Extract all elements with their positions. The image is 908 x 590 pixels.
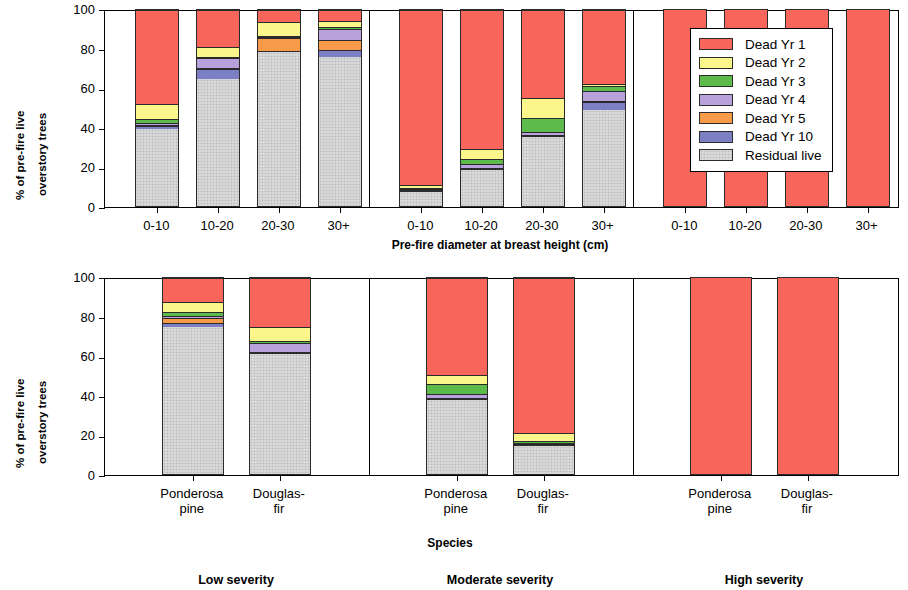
y-axis-tick — [99, 208, 105, 209]
bar-segment-yr2 — [163, 302, 223, 313]
y-axis-tick-label: 60 — [61, 81, 95, 96]
x-axis-tick — [808, 475, 809, 481]
bar-segment-yr3 — [583, 86, 625, 91]
legend-swatch-yr2 — [699, 57, 733, 69]
y-axis-tick-label: 100 — [61, 270, 95, 285]
bar-segment-yr4 — [136, 123, 178, 125]
x-axis-tick — [685, 207, 686, 213]
stacked-bar[interactable] — [777, 277, 839, 475]
y-axis-tick — [99, 358, 105, 359]
stacked-bar[interactable] — [513, 277, 575, 475]
y-axis-tick — [99, 476, 105, 477]
x-axis-tick — [457, 475, 458, 481]
stacked-bar[interactable] — [582, 9, 626, 207]
top-y-axis-title-line1: % of pre-fire live — [14, 111, 26, 200]
x-axis-tick — [340, 207, 341, 213]
y-axis-tick — [99, 318, 105, 319]
bar-segment-yr10 — [319, 50, 361, 57]
y-axis-tick-label: 40 — [61, 121, 95, 136]
legend-item-yr3[interactable]: Dead Yr 3 — [699, 72, 822, 91]
bottom-x-axis-title: Species — [340, 536, 560, 550]
legend-item-residual[interactable]: Residual live — [699, 146, 822, 165]
stacked-bar[interactable] — [690, 277, 752, 475]
bar-segment-yr4 — [427, 394, 487, 398]
legend-item-yr5[interactable]: Dead Yr 5 — [699, 109, 822, 128]
x-axis-tick-label: 30+ — [812, 218, 908, 233]
severity-label-1: Low severity — [126, 573, 346, 587]
bar-segment-yr1 — [522, 10, 564, 98]
bar-segment-yr5 — [197, 68, 239, 69]
stacked-bar[interactable] — [521, 9, 565, 207]
bar-segment-residual — [400, 192, 442, 206]
bottom-plot-area: 020406080100 — [104, 278, 899, 476]
panel-separator — [369, 279, 370, 475]
x-axis-tick — [868, 207, 869, 213]
legend-label-yr4: Dead Yr 4 — [745, 93, 806, 107]
bar-segment-yr1 — [847, 10, 889, 206]
legend-label-yr5: Dead Yr 5 — [745, 112, 806, 126]
bar-segment-yr3 — [400, 188, 442, 189]
stacked-bar[interactable] — [135, 9, 179, 207]
y-axis-tick-label: 80 — [61, 310, 95, 325]
stacked-bar[interactable] — [399, 9, 443, 207]
stacked-bar[interactable] — [162, 277, 224, 475]
bar-segment-yr4 — [461, 164, 503, 168]
bar-segment-yr5 — [522, 135, 564, 136]
legend-item-yr4[interactable]: Dead Yr 4 — [699, 91, 822, 110]
bar-segment-residual — [258, 52, 300, 206]
bar-segment-yr1 — [461, 10, 503, 149]
bottom-y-axis-title-line1: % of pre-fire live — [14, 379, 26, 468]
bar-segment-residual — [250, 354, 310, 474]
legend-swatch-yr10 — [699, 131, 733, 143]
y-axis-tick — [99, 397, 105, 398]
legend-label-yr10: Dead Yr 10 — [745, 130, 813, 144]
bar-segment-yr1 — [400, 10, 442, 185]
stacked-bar[interactable] — [846, 9, 890, 207]
bar-segment-yr2 — [583, 84, 625, 87]
bar-segment-yr2 — [319, 21, 361, 27]
bar-segment-residual — [197, 79, 239, 206]
stacked-bar[interactable] — [257, 9, 301, 207]
x-axis-tick — [721, 475, 722, 481]
bar-segment-yr10 — [583, 102, 625, 110]
stacked-bar[interactable] — [460, 9, 504, 207]
severity-label-2: Moderate severity — [390, 573, 610, 587]
x-axis-tick — [543, 207, 544, 213]
bar-segment-yr4 — [197, 58, 239, 68]
stacked-bar[interactable] — [426, 277, 488, 475]
stacked-bar[interactable] — [318, 9, 362, 207]
bar-segment-yr3 — [522, 118, 564, 132]
bar-segment-yr5 — [319, 40, 361, 50]
bar-segment-yr1 — [319, 10, 361, 21]
bar-segment-yr5 — [250, 352, 310, 354]
x-axis-tick-label: Douglas-fir — [488, 486, 598, 516]
bar-segment-residual — [163, 327, 223, 474]
legend-item-yr10[interactable]: Dead Yr 10 — [699, 128, 822, 147]
legend-item-yr1[interactable]: Dead Yr 1 — [699, 35, 822, 54]
bar-segment-residual — [319, 57, 361, 206]
bar-segment-yr10 — [250, 353, 310, 354]
legend-swatch-yr1 — [699, 38, 733, 50]
bar-segment-yr3 — [514, 441, 574, 443]
bar-segment-yr10 — [461, 169, 503, 170]
bar-segment-yr5 — [583, 101, 625, 102]
x-axis-tick — [280, 475, 281, 481]
legend-item-yr2[interactable]: Dead Yr 2 — [699, 54, 822, 73]
bar-segment-residual — [583, 110, 625, 206]
stacked-bar[interactable] — [249, 277, 311, 475]
bar-segment-yr1 — [250, 278, 310, 327]
bar-segment-yr10 — [522, 136, 564, 137]
x-axis-tick-label: Douglas-fir — [224, 486, 334, 516]
x-axis-tick — [482, 207, 483, 213]
y-axis-tick-label: 60 — [61, 349, 95, 364]
stacked-bar[interactable] — [196, 9, 240, 207]
bar-segment-yr5 — [400, 190, 442, 191]
severity-label-3: High severity — [654, 573, 874, 587]
legend-label-yr2: Dead Yr 2 — [745, 56, 806, 70]
x-axis-tick — [279, 207, 280, 213]
legend-swatch-yr4 — [699, 94, 733, 106]
bar-segment-residual — [427, 400, 487, 474]
bar-segment-yr10 — [514, 445, 574, 446]
y-axis-tick — [99, 129, 105, 130]
bar-segment-yr2 — [400, 185, 442, 188]
